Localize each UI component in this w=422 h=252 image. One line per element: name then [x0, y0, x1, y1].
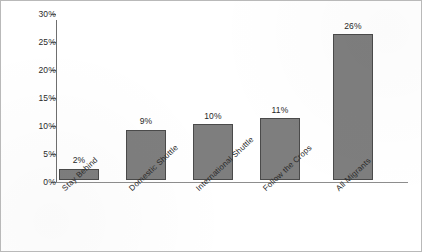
bar-value-label: 9%: [118, 117, 174, 126]
bar-value-label: 11%: [252, 106, 308, 115]
y-axis-tick-label: 10%: [10, 122, 56, 131]
y-axis-tick: 15%: [1, 98, 56, 99]
y-axis-tick-label: 5%: [10, 150, 56, 159]
y-axis-tick-label: 20%: [10, 66, 56, 75]
x-axis-line: [56, 182, 408, 183]
y-axis-tick: 30%: [1, 14, 56, 15]
y-axis-tick: 20%: [1, 70, 56, 71]
y-axis-tick-label: 15%: [10, 94, 56, 103]
y-axis-tick: 0%: [1, 182, 56, 183]
bar-chart: 30%25%20%15%10%5%0% 2%9%10%11%26% Stay B…: [0, 0, 422, 252]
bar-value-label: 26%: [325, 22, 381, 31]
y-axis-tick-label: 25%: [10, 38, 56, 47]
y-axis-tick: 10%: [1, 126, 56, 127]
y-axis-tick: 25%: [1, 42, 56, 43]
y-axis-tick: 5%: [1, 154, 56, 155]
bar-value-label: 10%: [185, 112, 241, 121]
y-axis-tick-label: 0%: [10, 178, 56, 187]
y-axis-tick-label: 30%: [10, 10, 56, 19]
